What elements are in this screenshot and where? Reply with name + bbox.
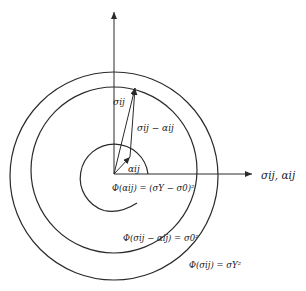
middle-surface-equation: Φ(σij − αij) = σ0² (123, 234, 199, 243)
horizontal-axis-label: σij, αij (261, 170, 295, 181)
alpha-vector-label: αij (128, 165, 140, 174)
sigma-vector-label: σij (113, 98, 125, 107)
diagram-canvas (0, 0, 306, 291)
inner-surface-equation: Φ(αij) = (σY − σ0)² (112, 184, 194, 193)
sigma-minus-alpha-label: σij − αij (137, 124, 174, 133)
outer-surface-equation: Φ(σij) = σY² (189, 261, 241, 270)
